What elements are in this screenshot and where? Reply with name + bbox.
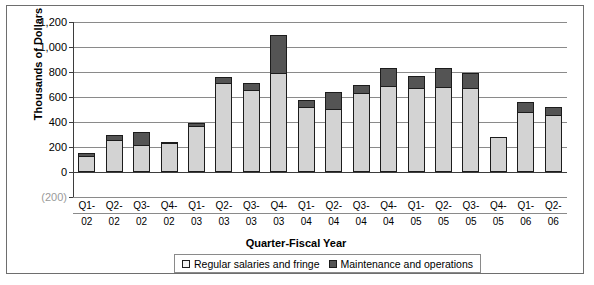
x-tick-quarter: Q2- — [210, 199, 238, 214]
x-tick-label-Q2-03: Q2-03 — [210, 199, 238, 228]
x-tick-label-Q1-03: Q1-03 — [183, 199, 211, 228]
x-tick-label-Q1-06: Q1-06 — [512, 199, 540, 228]
bar-Q3-02 — [133, 132, 150, 172]
x-tick-quarter: Q2- — [430, 199, 458, 214]
bar-segment-regular-salaries-and-fringe — [244, 91, 259, 172]
bar-Q1-02 — [78, 153, 95, 172]
x-tick-quarter: Q2- — [539, 199, 567, 214]
bar-segment-regular-salaries-and-fringe — [189, 127, 204, 171]
x-tick-year: 02 — [128, 214, 156, 228]
x-tick-year: 04 — [375, 214, 403, 228]
x-tick-quarter: Q4- — [265, 199, 293, 214]
legend-entry-2: Maintenance and operations — [329, 258, 474, 270]
bar-segment-maintenance-and-operations — [134, 133, 149, 146]
bar-segment-maintenance-and-operations — [546, 108, 561, 116]
x-tick-label-Q4-02: Q4-02 — [155, 199, 183, 228]
bar-Q4-04 — [380, 68, 397, 172]
bar-Q4-02 — [161, 142, 178, 172]
x-tick-label-Q3-02: Q3-02 — [128, 199, 156, 228]
y-tick-label: 800 — [7, 66, 67, 78]
legend-swatch-icon — [329, 260, 337, 268]
bar-Q1-05 — [408, 76, 425, 172]
x-tick-year: 03 — [237, 214, 265, 228]
bar-segment-maintenance-and-operations — [271, 36, 286, 75]
legend-label: Regular salaries and fringe — [194, 258, 320, 270]
bar-segment-regular-salaries-and-fringe — [216, 84, 231, 171]
legend-entry-1: Regular salaries and fringe — [182, 258, 320, 270]
x-tick-year: 02 — [155, 214, 183, 228]
bar-segment-regular-salaries-and-fringe — [354, 94, 369, 171]
x-tick-label-Q2-05: Q2-05 — [430, 199, 458, 228]
bar-Q1-06 — [517, 102, 534, 172]
x-tick-year: 03 — [210, 214, 238, 228]
x-tick-year: 05 — [430, 214, 458, 228]
bar-segment-regular-salaries-and-fringe — [107, 141, 122, 171]
bar-segment-maintenance-and-operations — [436, 69, 451, 88]
bar-Q2-02 — [106, 135, 123, 172]
x-tick-label-Q1-04: Q1-04 — [292, 199, 320, 228]
bar-Q3-04 — [353, 85, 370, 173]
bar-Q2-04 — [325, 92, 342, 172]
x-tick-year: 06 — [512, 214, 540, 228]
x-tick-label-Q4-04: Q4-04 — [375, 199, 403, 228]
bar-segment-regular-salaries-and-fringe — [409, 89, 424, 171]
bar-Q1-03 — [188, 123, 205, 172]
x-tick-quarter: Q4- — [375, 199, 403, 214]
x-tick-label-Q4-05: Q4-05 — [484, 199, 512, 228]
bar-Q3-03 — [243, 83, 260, 172]
x-tick-quarter: Q3- — [457, 199, 485, 214]
x-tick-quarter: Q1- — [402, 199, 430, 214]
x-tick-label-Q3-05: Q3-05 — [457, 199, 485, 228]
bars-layer — [73, 22, 567, 197]
bar-segment-maintenance-and-operations — [463, 74, 478, 90]
legend-swatch-icon — [182, 260, 190, 268]
y-tick-mark — [69, 197, 73, 198]
y-tick-label: 1,200 — [7, 16, 67, 28]
bar-segment-regular-salaries-and-fringe — [491, 138, 506, 171]
y-tick-label: 600 — [7, 91, 67, 103]
bar-segment-regular-salaries-and-fringe — [381, 87, 396, 171]
x-tick-quarter: Q2- — [100, 199, 128, 214]
x-tick-label-Q2-06: Q2-06 — [539, 199, 567, 228]
x-tick-quarter: Q1- — [292, 199, 320, 214]
x-tick-label-Q3-03: Q3-03 — [237, 199, 265, 228]
x-tick-label-Q3-04: Q3-04 — [347, 199, 375, 228]
x-tick-year: 03 — [183, 214, 211, 228]
x-tick-label-Q2-04: Q2-04 — [320, 199, 348, 228]
x-tick-year: 02 — [73, 214, 101, 228]
y-tick-label: 1,000 — [7, 41, 67, 53]
x-tick-year: 05 — [402, 214, 430, 228]
bar-segment-maintenance-and-operations — [299, 101, 314, 108]
legend-label: Maintenance and operations — [341, 258, 474, 270]
bar-segment-regular-salaries-and-fringe — [162, 144, 177, 171]
x-tick-label-Q2-02: Q2-02 — [100, 199, 128, 228]
x-tick-year: 04 — [292, 214, 320, 228]
y-tick-label: (200) — [7, 191, 67, 203]
bar-Q1-04 — [298, 100, 315, 172]
x-axis-title: Quarter-Fiscal Year — [7, 237, 585, 249]
bar-segment-regular-salaries-and-fringe — [518, 113, 533, 171]
bar-segment-maintenance-and-operations — [381, 69, 396, 88]
x-tick-quarter: Q1- — [512, 199, 540, 214]
x-tick-quarter: Q4- — [484, 199, 512, 214]
bar-Q2-03 — [215, 77, 232, 172]
x-tick-quarter: Q1- — [73, 199, 101, 214]
x-tick-label-Q4-03: Q4-03 — [265, 199, 293, 228]
x-tick-label-Q1-02: Q1-02 — [73, 199, 101, 228]
x-tick-quarter: Q4- — [155, 199, 183, 214]
y-tick-label: 400 — [7, 116, 67, 128]
bar-Q4-05 — [490, 137, 507, 172]
plot-area: 1,2001,0008006004002000(200) — [73, 22, 567, 197]
bar-Q4-03 — [270, 35, 287, 173]
gridline--200 — [73, 197, 567, 198]
bar-segment-maintenance-and-operations — [354, 86, 369, 95]
x-tick-year: 06 — [539, 214, 567, 228]
bar-segment-regular-salaries-and-fringe — [463, 89, 478, 171]
x-tick-quarter: Q2- — [320, 199, 348, 214]
chart-frame: Thousands of Dollars 1,2001,000800600400… — [6, 5, 584, 274]
x-axis-tick-labels: Q1-02Q2-02Q3-02Q4-02Q1-03Q2-03Q3-03Q4-03… — [73, 199, 567, 235]
chart-legend: Regular salaries and fringeMaintenance a… — [174, 254, 481, 273]
bar-segment-regular-salaries-and-fringe — [326, 110, 341, 171]
bar-segment-regular-salaries-and-fringe — [546, 116, 561, 172]
bar-Q2-05 — [435, 68, 452, 172]
